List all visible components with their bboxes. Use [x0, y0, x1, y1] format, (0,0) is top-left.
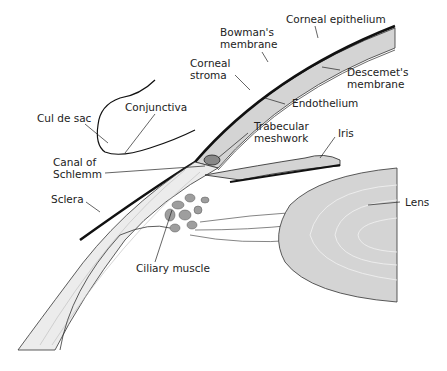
label-trabecular-meshwork: Trabecular meshwork — [254, 120, 309, 144]
label-line: Bowman's — [220, 26, 277, 38]
label-canal-of-schlemm: Canal of Schlemm — [53, 156, 102, 180]
eye-anatomy-diagram: Corneal epithelium Bowman's membrane Cor… — [0, 0, 447, 371]
label-line: Schlemm — [53, 168, 102, 180]
label-line: Corneal — [190, 57, 230, 69]
label-cul-de-sac: Cul de sac — [37, 112, 91, 124]
label-descemets-membrane: Descemet's membrane — [347, 66, 408, 90]
conjunctiva-shape — [97, 80, 195, 154]
label-corneal-stroma: Corneal stroma — [190, 57, 230, 81]
lens-shape — [279, 168, 397, 302]
label-sclera: Sclera — [51, 193, 84, 205]
label-line: Descemet's — [347, 66, 408, 78]
label-endothelium: Endothelium — [292, 97, 358, 109]
label-ciliary-muscle: Ciliary muscle — [136, 262, 210, 274]
label-corneal-epithelium: Corneal epithelium — [286, 13, 386, 25]
label-iris: Iris — [338, 127, 354, 139]
label-line: meshwork — [254, 132, 309, 144]
label-line: Canal of — [53, 156, 102, 168]
sclera-shape — [18, 162, 218, 350]
label-line: membrane — [347, 78, 408, 90]
ciliary-muscle-shape — [165, 194, 209, 232]
label-line: stroma — [190, 69, 230, 81]
label-lens: Lens — [405, 196, 429, 208]
diagram-artwork — [0, 0, 447, 371]
label-line: membrane — [220, 38, 277, 50]
label-conjunctiva: Conjunctiva — [125, 101, 187, 113]
label-line: Trabecular — [254, 120, 309, 132]
label-bowmans-membrane: Bowman's membrane — [220, 26, 277, 50]
trabecular-meshwork-shape — [204, 155, 220, 165]
